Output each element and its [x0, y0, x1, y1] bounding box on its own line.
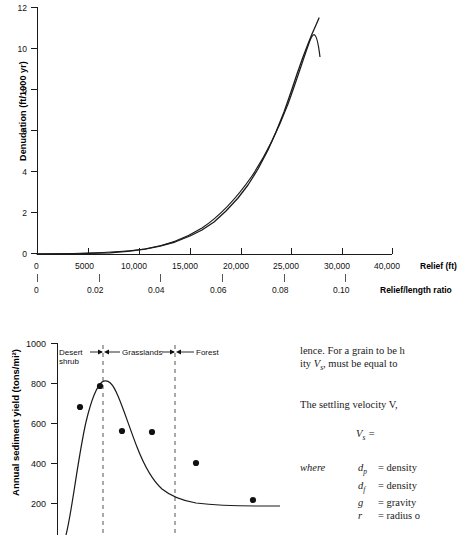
fig2-zone-label-grasslands: Grasslands [122, 348, 162, 357]
textbook-page: Denudation (ft/1000 yr) 12 10 8 6 4 2 0 [0, 0, 464, 535]
fig2-ytick-label: 600 [20, 419, 46, 429]
definition-row: df= density [358, 479, 464, 496]
fig1-xtick-label: 25,000 [273, 261, 299, 271]
fig1-y-axis-title: Denudation (ft/1000 yr) [18, 36, 28, 186]
fig1-secondary-x-axis-title: Relief/length ratio [380, 285, 452, 295]
figure-sediment-yield: Annual sediment yield (tons/mi²) 1000 80… [0, 337, 280, 535]
fig1-ytick-label: 10 [7, 44, 27, 54]
symbol-df: df [358, 479, 378, 496]
definition-row: g= gravity [358, 496, 464, 509]
fig2-zone-desert-line1: Desert [59, 348, 83, 357]
fig1-xtick-label: 15,000 [172, 261, 198, 271]
subscript-s: s [320, 363, 323, 372]
fig1-ytick-label: 2 [7, 208, 27, 218]
fig2-ytick-label: 200 [20, 499, 46, 509]
fig2-ytick-label: 800 [20, 379, 46, 389]
symbol-g: g [358, 496, 378, 509]
fig1-x-axis-title: Relief (ft) [420, 261, 457, 271]
fig1-xtick-label: 0 [34, 261, 39, 271]
fig2-ytick-label: 400 [20, 459, 46, 469]
fig1-xtick-label: 5000 [75, 261, 94, 271]
fig1-xtick-label: 10,000 [121, 261, 147, 271]
fig1-ytick-label: 0 [7, 249, 27, 259]
fig1-xtick-label: 40,000 [374, 261, 400, 271]
fig1-xtick-label: 30,000 [324, 261, 350, 271]
definition-row: r= radius o [358, 509, 464, 522]
fig1-xtick2-label: 0 [34, 285, 39, 295]
equation-settling-velocity: Vs = [356, 427, 464, 444]
fig1-xtick2-label: 0.06 [210, 285, 227, 295]
body-text-column: lence. For a grain to be h ity Vs, must … [300, 344, 464, 535]
fig1-ytick-label: 4 [7, 167, 27, 177]
fig2-zone-label-desert-shrub: Desert shrub [59, 348, 83, 366]
fig1-xtick-label: 20,000 [223, 261, 249, 271]
fig2-y-axis-line [57, 343, 58, 535]
symbol-dp: dp [358, 461, 378, 478]
fig1-xtick2-label: 0.08 [272, 285, 289, 295]
fig1-ytick-label: 12 [7, 3, 27, 13]
paragraph-line: ity Vs, must be equal to [300, 357, 464, 374]
fig1-xtick2-label: 0.02 [87, 285, 104, 295]
equation-subscript: s [362, 433, 365, 442]
fig1-y-axis-line [37, 7, 38, 254]
paragraph-line: lence. For a grain to be h [300, 344, 464, 357]
fig2-zone-label-forest: Forest [196, 348, 219, 357]
fig2-ytick-label: 1000 [20, 339, 46, 349]
figure-denudation-vs-relief: Denudation (ft/1000 yr) 12 10 8 6 4 2 0 [0, 0, 464, 300]
fig1-x-axis-line [37, 254, 392, 255]
definition-row: dp= density [358, 461, 464, 478]
paragraph-line: The settling velocity V, [300, 398, 464, 411]
symbol-definition-list: dp= density df= density g= gravity r= ra… [358, 461, 464, 522]
fig1-xtick2-label: 0.04 [148, 285, 165, 295]
fig1-ytick-label: 8 [7, 85, 27, 95]
fig1-xtick2-label: 0.10 [333, 285, 350, 295]
fig1-curve [0, 0, 464, 300]
symbol-r: r [358, 509, 378, 522]
fig2-zone-desert-line2: shrub [59, 357, 79, 366]
fig1-ytick-label: 6 [7, 126, 27, 136]
fig2-y-axis-title: Annual sediment yield (tons/mi²) [10, 330, 21, 516]
